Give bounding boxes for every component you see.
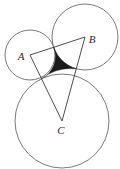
figure-container: A B C xyxy=(0,0,120,169)
label-b: B xyxy=(89,33,96,45)
label-c: C xyxy=(57,124,65,136)
geometry-figure: A B C xyxy=(0,0,120,169)
figure-background xyxy=(0,0,120,169)
label-a: A xyxy=(17,50,25,62)
